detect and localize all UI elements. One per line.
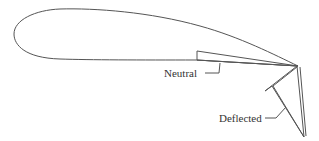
neutral-leader: [205, 63, 220, 73]
airfoil-diagram: Neutral Deflected: [0, 0, 319, 141]
deflected-leader: [265, 107, 286, 118]
airfoil-drawing: [0, 0, 319, 141]
airfoil-outline: [14, 9, 298, 66]
deflected-label: Deflected: [219, 113, 262, 124]
neutral-label: Neutral: [164, 68, 197, 79]
